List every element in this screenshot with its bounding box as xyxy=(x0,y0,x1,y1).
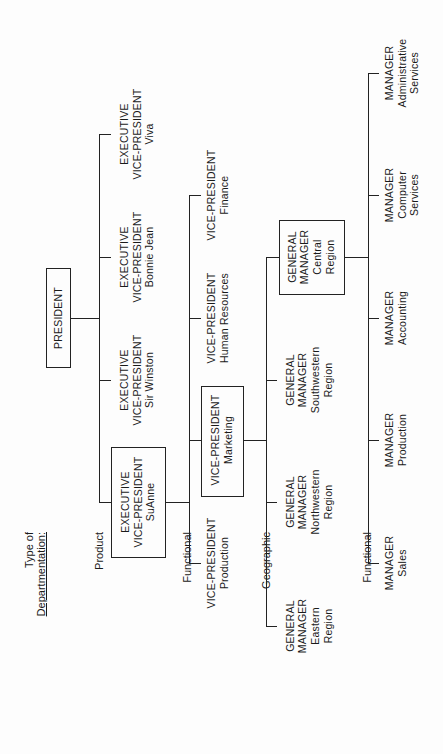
mgr-dept: Administrative xyxy=(396,39,409,108)
mgr-dept: Sales xyxy=(396,549,409,576)
gm-line: GENERAL xyxy=(286,231,299,283)
mgr-dept: Accounting xyxy=(396,291,409,345)
connector xyxy=(165,502,189,503)
evp-line: EXECUTIVE xyxy=(118,349,131,410)
mgr-line: MANAGER xyxy=(383,291,396,346)
evp-name: Viva xyxy=(143,123,156,144)
vp-dept: Finance xyxy=(218,176,231,215)
gm-line: MANAGER xyxy=(298,230,311,285)
product-bus xyxy=(99,134,100,503)
gm-line: Region xyxy=(322,485,335,519)
mgr-line: MANAGER xyxy=(383,46,396,101)
geographic-bus xyxy=(266,257,267,627)
gm-line: Region xyxy=(322,609,335,643)
gm-line: Region xyxy=(324,240,337,274)
mgr-line: MANAGER xyxy=(383,413,396,468)
gm-line: MANAGER xyxy=(296,599,309,654)
gm-region: Central xyxy=(311,239,324,274)
gm-central: GENERAL MANAGER Central Region xyxy=(281,157,341,357)
gm-line: GENERAL xyxy=(284,354,297,406)
evp-line: EXECUTIVE xyxy=(119,471,132,532)
evp-line: VICE-PRESIDENT xyxy=(131,89,144,180)
vp-dept: Marketing xyxy=(222,416,235,464)
gm-line: MANAGER xyxy=(296,353,309,408)
vp-line: VICE-PRESIDENT xyxy=(205,150,218,241)
evp-line: EXECUTIVE xyxy=(118,226,131,287)
gm-line: Region xyxy=(322,363,335,397)
evp-name: SuAnne xyxy=(144,483,157,522)
evp-name: Sir Winston xyxy=(143,352,156,408)
legend-title-line2: Departmentation: xyxy=(35,532,48,692)
mgr-dept: Production xyxy=(396,414,409,466)
mgr-dept: Computer xyxy=(396,171,409,219)
tick xyxy=(266,380,277,381)
gm-line: GENERAL xyxy=(284,476,297,528)
mgr-dept: Services xyxy=(408,174,421,216)
tick xyxy=(266,502,277,503)
gm-region: Eastern xyxy=(309,607,322,645)
gm-line: GENERAL xyxy=(284,600,297,652)
president-title: PRESIDENT xyxy=(52,287,65,349)
gm-line: MANAGER xyxy=(296,475,309,530)
connector xyxy=(344,257,368,258)
legend-title: Type of Departmentation: xyxy=(20,532,50,692)
tick xyxy=(266,626,277,627)
mgr-administrative-services: MANAGER Administrative Services xyxy=(372,0,432,173)
tick xyxy=(266,257,279,258)
mgr-dept: Services xyxy=(408,52,421,94)
org-chart-page: Type of Departmentation: Product Functio… xyxy=(0,0,443,754)
vp-dept: Production xyxy=(218,537,231,589)
vp-finance: VICE-PRESIDENT Finance xyxy=(188,95,248,295)
mgr-line: MANAGER xyxy=(383,168,396,223)
legend-row-label: Product xyxy=(93,532,106,692)
connector xyxy=(70,318,99,319)
evp-line: EXECUTIVE xyxy=(118,103,131,164)
evp-viva: EXECUTIVE VICE-PRESIDENT Viva xyxy=(107,34,167,234)
connector xyxy=(243,440,266,441)
evp-name: Bonnie Jean xyxy=(143,227,156,288)
legend-title-line1: Type of xyxy=(23,532,36,692)
mgr-line: MANAGER xyxy=(383,536,396,591)
